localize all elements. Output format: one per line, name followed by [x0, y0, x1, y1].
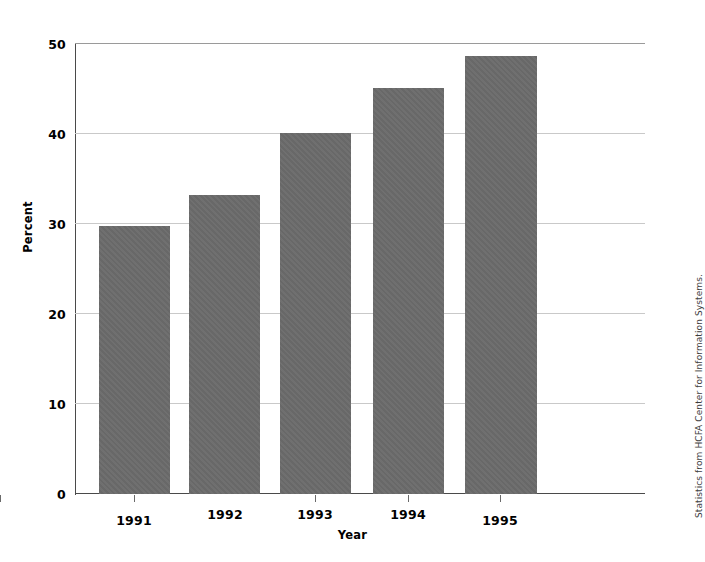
x-tick-label-1992: 1992 [180, 507, 270, 522]
bar-chart-figure: 50 40 30 20 10 0 Percent 1991 1992 1993 … [0, 0, 705, 562]
source-credit-text: Statistics from HCFA Center for Informat… [694, 288, 704, 518]
y-axis-tick-labels: 50 40 30 20 10 0 [0, 0, 66, 562]
gridline-30 [75, 223, 645, 224]
y-tick-label-10: 10 [6, 397, 66, 412]
y-tick-label-30: 30 [6, 217, 66, 232]
x-tick-mark-1995 [500, 495, 501, 502]
bar-1994 [373, 88, 444, 494]
y-tick-label-40: 40 [6, 127, 66, 142]
x-tick-mark-1991 [134, 495, 135, 502]
x-tick-label-1991: 1991 [89, 513, 179, 528]
y-tick-label-0: 0 [6, 487, 66, 502]
x-axis-title: Year [0, 528, 705, 542]
x-tick-label-1994: 1994 [363, 507, 453, 522]
x-tick-mark-1992 [0, 495, 1, 502]
bar-1993 [280, 133, 351, 494]
bar-1991 [99, 226, 170, 494]
y-tick-label-50: 50 [6, 37, 66, 52]
x-tick-mark-1993 [315, 495, 316, 502]
plot-area [75, 43, 645, 494]
x-tick-mark-1994 [408, 495, 409, 502]
x-tick-label-1995: 1995 [455, 513, 545, 528]
y-tick-label-20: 20 [6, 307, 66, 322]
bar-1995 [465, 56, 537, 494]
gridline-50 [75, 43, 645, 44]
x-tick-label-1993: 1993 [270, 507, 360, 522]
y-axis-title: Percent [21, 192, 35, 262]
bar-1992 [189, 195, 260, 494]
gridline-40 [75, 133, 645, 134]
